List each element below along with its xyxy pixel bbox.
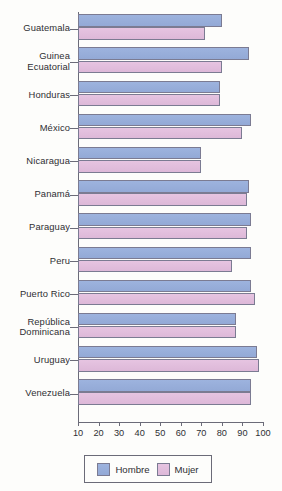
bar-hombre	[78, 280, 251, 292]
bar-group	[78, 112, 282, 145]
bar-hombre	[78, 114, 251, 126]
bar-hombre	[78, 14, 222, 26]
category-tick	[70, 95, 78, 96]
bar-hombre	[78, 47, 249, 59]
bar-mujer	[78, 359, 259, 371]
x-tick	[160, 422, 161, 426]
bar-group	[78, 377, 282, 410]
legend-item-hombre: Hombre	[97, 463, 149, 476]
category-tick	[70, 29, 78, 30]
category-tick	[70, 327, 78, 328]
bar-group	[78, 178, 282, 211]
bar-hombre	[78, 147, 201, 159]
category-tick	[70, 261, 78, 262]
category-label: Nicaragua	[0, 156, 70, 167]
x-tick-label: 80	[217, 428, 227, 438]
bar-group	[78, 145, 282, 178]
category-label: República Dominicana	[0, 317, 70, 338]
bar-group	[78, 45, 282, 78]
x-tick	[119, 422, 120, 426]
bar-row: Paraguay	[0, 211, 282, 244]
bar-group	[78, 278, 282, 311]
bar-group	[78, 12, 282, 45]
bar-row: Nicaragua	[0, 145, 282, 178]
category-tick	[70, 161, 78, 162]
bar-rows: GuatemalaGuinea EcuatorialHondurasMéxico…	[0, 12, 282, 410]
category-label: Guinea Ecuatorial	[0, 51, 70, 72]
legend-item-mujer: Mujer	[157, 463, 199, 476]
bar-row: Guinea Ecuatorial	[0, 45, 282, 78]
bar-row: Panamá	[0, 178, 282, 211]
bar-hombre	[78, 247, 251, 259]
x-tick-label: 30	[114, 428, 124, 438]
category-label: Venezuela	[0, 388, 70, 399]
bar-hombre	[78, 81, 220, 93]
mujer-swatch-icon	[157, 463, 170, 476]
category-tick	[70, 195, 78, 196]
hombre-swatch-icon	[97, 463, 110, 476]
category-label: Peru	[0, 256, 70, 267]
x-tick	[201, 422, 202, 426]
bar-mujer	[78, 61, 222, 73]
bar-row: Guatemala	[0, 12, 282, 45]
x-tick-label: 70	[196, 428, 206, 438]
bar-group	[78, 344, 282, 377]
category-label: Paraguay	[0, 222, 70, 233]
plot-area: GuatemalaGuinea EcuatorialHondurasMéxico…	[0, 0, 282, 430]
x-tick-label: 50	[155, 428, 165, 438]
bar-mujer	[78, 260, 232, 272]
category-label: Honduras	[0, 90, 70, 101]
bar-mujer	[78, 293, 255, 305]
category-label: México	[0, 123, 70, 134]
bar-hombre	[78, 213, 251, 225]
x-tick	[263, 422, 264, 426]
x-tick-label: 10	[73, 428, 83, 438]
bar-row: Venezuela	[0, 377, 282, 410]
x-tick	[242, 422, 243, 426]
category-label: Puerto Rico	[0, 289, 70, 300]
category-tick	[70, 294, 78, 295]
category-label: Uruguay	[0, 355, 70, 366]
x-tick-label: 100	[255, 428, 270, 438]
bar-mujer	[78, 326, 236, 338]
bar-mujer	[78, 193, 247, 205]
bar-group	[78, 244, 282, 277]
bar-row: Uruguay	[0, 344, 282, 377]
x-axis-ticks: 102030405060708090100	[0, 422, 282, 448]
category-tick	[70, 394, 78, 395]
x-tick	[181, 422, 182, 426]
bar-row: México	[0, 112, 282, 145]
bar-mujer	[78, 227, 247, 239]
bar-mujer	[78, 392, 251, 404]
horizontal-bar-chart: GuatemalaGuinea EcuatorialHondurasMéxico…	[0, 0, 282, 491]
category-label: Panamá	[0, 189, 70, 200]
bar-hombre	[78, 379, 251, 391]
bar-mujer	[78, 94, 220, 106]
x-tick	[78, 422, 79, 426]
bar-mujer	[78, 160, 201, 172]
x-tick-label: 60	[176, 428, 186, 438]
legend-label-hombre: Hombre	[115, 464, 149, 475]
bar-row: República Dominicana	[0, 311, 282, 344]
x-tick-label: 40	[135, 428, 145, 438]
bar-row: Puerto Rico	[0, 278, 282, 311]
bar-hombre	[78, 313, 236, 325]
bar-group	[78, 78, 282, 111]
x-tick-label: 90	[237, 428, 247, 438]
category-tick	[70, 128, 78, 129]
x-tick	[99, 422, 100, 426]
x-tick-label: 20	[93, 428, 103, 438]
category-label: Guatemala	[0, 23, 70, 34]
bar-row: Honduras	[0, 78, 282, 111]
bar-hombre	[78, 180, 249, 192]
bar-hombre	[78, 346, 257, 358]
category-tick	[70, 360, 78, 361]
chart-legend: Hombre Mujer	[84, 455, 212, 483]
bar-row: Peru	[0, 244, 282, 277]
x-tick	[222, 422, 223, 426]
bar-mujer	[78, 127, 242, 139]
bar-mujer	[78, 27, 205, 39]
x-tick	[140, 422, 141, 426]
category-tick	[70, 228, 78, 229]
bar-group	[78, 311, 282, 344]
